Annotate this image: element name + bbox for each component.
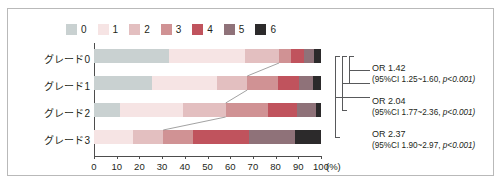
stacked-bar <box>94 130 321 144</box>
bar-segment <box>193 130 250 144</box>
annotation-leader-line <box>335 97 370 98</box>
legend-swatch-icon <box>224 24 235 35</box>
annotation-leader-line <box>349 70 370 71</box>
x-axis-tick-label: 0 <box>91 161 96 172</box>
odds-ratio-annotation: OR 1.42(95%CI 1.25~1.60, p<0.001) <box>372 62 475 86</box>
p-value: p<0.001) <box>443 141 476 150</box>
legend-swatch-icon <box>66 24 77 35</box>
bar-segment <box>120 103 182 117</box>
stacked-bar <box>94 76 321 90</box>
bar-segment <box>278 76 300 90</box>
legend-swatch-icon <box>161 24 172 35</box>
legend-item-label: 3 <box>176 24 182 35</box>
x-axis-tick <box>253 156 254 159</box>
x-axis-tick <box>298 156 299 159</box>
legend-item: 1 <box>98 24 119 35</box>
bar-segment <box>316 103 321 117</box>
legend-swatch-icon <box>192 24 203 35</box>
x-axis-tick <box>162 156 163 159</box>
legend-item-label: 4 <box>207 24 213 35</box>
x-axis-tick-label: 10 <box>111 161 122 172</box>
bar-segment <box>313 76 321 90</box>
x-axis-tick <box>321 156 322 159</box>
x-axis-tick <box>230 156 231 159</box>
p-value: p<0.001) <box>443 75 476 84</box>
bar-segment <box>299 76 313 90</box>
x-axis-tick <box>276 156 277 159</box>
bar-segment <box>247 76 278 90</box>
bar-segment <box>217 76 248 90</box>
plot-area <box>94 43 321 157</box>
x-axis-tick <box>208 156 209 159</box>
bar-segment <box>314 49 321 63</box>
confidence-interval-text: (95%CI 1.25~1.60, p<0.001) <box>372 74 475 86</box>
bar-segment <box>94 49 169 63</box>
confidence-interval-value: (95%CI 1.77~2.36, <box>372 108 441 117</box>
legend-item: 3 <box>161 24 182 35</box>
bar-segment <box>245 49 279 63</box>
x-axis-tick-label: 30 <box>157 161 168 172</box>
legend-swatch-icon <box>129 24 140 35</box>
bar-segment <box>183 103 226 117</box>
bar-segment <box>279 49 291 63</box>
bar-segment <box>249 130 294 144</box>
confidence-interval-value: (95%CI 1.25~1.60, <box>372 75 441 84</box>
p-value: p<0.001) <box>443 108 476 117</box>
y-axis-label: グレード0 <box>44 51 90 66</box>
odds-ratio-annotation: OR 2.04(95%CI 1.77~2.36, p<0.001) <box>372 95 475 119</box>
annotation-leader-line <box>342 83 370 84</box>
x-axis-tick-label: 90 <box>293 161 304 172</box>
legend-item-label: 5 <box>239 24 245 35</box>
bar-segment <box>163 130 193 144</box>
bar-segment <box>152 76 217 90</box>
x-axis-tick <box>94 156 95 159</box>
confidence-interval-text: (95%CI 1.77~2.36, p<0.001) <box>372 107 475 119</box>
odds-ratio-value: OR 2.37 <box>372 128 475 140</box>
chart-frame: 0123456 グレード0グレード1グレード2グレード3 01020304050… <box>7 8 494 176</box>
bar-segment <box>304 49 314 63</box>
odds-ratio-value: OR 2.04 <box>372 95 475 107</box>
y-axis-label: グレード1 <box>44 78 90 93</box>
x-axis-tick-label: 40 <box>180 161 191 172</box>
legend-item: 5 <box>224 24 245 35</box>
bar-segment <box>94 103 120 117</box>
x-axis-tick-label: 60 <box>225 161 236 172</box>
legend-item-label: 2 <box>144 24 150 35</box>
bar-segment <box>133 130 164 144</box>
stacked-bar <box>94 49 321 63</box>
legend-item-label: 6 <box>270 24 276 35</box>
legend-item: 2 <box>129 24 150 35</box>
bar-segment <box>226 103 268 117</box>
x-axis-tick <box>185 156 186 159</box>
bar-segment <box>268 103 298 117</box>
bar-segment <box>169 49 245 63</box>
x-axis-tick <box>139 156 140 159</box>
stacked-bar <box>94 103 321 117</box>
y-axis-label: グレード3 <box>44 132 90 147</box>
legend-item: 6 <box>255 24 276 35</box>
odds-ratio-annotation: OR 2.37(95%CI 1.90~2.97, p<0.001) <box>372 128 475 152</box>
x-axis-unit-label: (%) <box>326 161 341 172</box>
legend-item-label: 0 <box>81 24 87 35</box>
y-axis-label: グレード2 <box>44 105 90 120</box>
x-axis-tick-label: 80 <box>270 161 281 172</box>
bar-segment <box>94 76 152 90</box>
confidence-interval-value: (95%CI 1.90~2.97, <box>372 141 441 150</box>
confidence-interval-text: (95%CI 1.90~2.97, p<0.001) <box>372 140 475 152</box>
legend-item-label: 1 <box>113 24 119 35</box>
x-axis-tick-label: 70 <box>248 161 259 172</box>
legend-item: 0 <box>66 24 87 35</box>
x-axis-tick-label: 20 <box>134 161 145 172</box>
x-axis-tick-label: 50 <box>202 161 213 172</box>
bar-segment <box>291 49 303 63</box>
odds-ratio-value: OR 1.42 <box>372 62 475 74</box>
chart-legend: 0123456 <box>66 22 287 36</box>
legend-swatch-icon <box>255 24 266 35</box>
legend-item: 4 <box>192 24 213 35</box>
legend-swatch-icon <box>98 24 109 35</box>
bar-segment <box>297 103 316 117</box>
bar-segment <box>94 130 133 144</box>
y-axis-labels: グレード0グレード1グレード2グレード3 <box>8 43 90 157</box>
x-axis-tick <box>117 156 118 159</box>
bar-segment <box>295 130 321 144</box>
